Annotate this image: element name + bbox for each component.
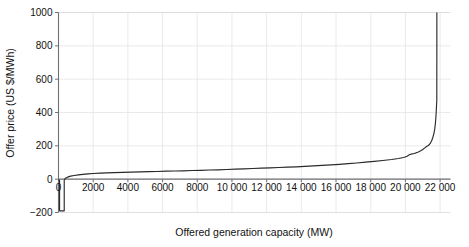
x-tick-label-18000: 18 000 — [355, 182, 386, 193]
x-tick-label-0: 0 — [56, 182, 62, 193]
y-tick-label-600: 600 — [36, 74, 53, 85]
x-tick-label-22000: 22 000 — [425, 182, 456, 193]
x-tick-label-16000: 16 000 — [321, 182, 352, 193]
x-axis-title: Offered generation capacity (MW) — [175, 226, 332, 238]
x-tick-labels: 0200040006000800010 00012 00014 00016 00… — [56, 182, 456, 193]
y-tick-label-200: 200 — [36, 140, 53, 151]
y-tick-labels: −20002004006008001000 — [30, 7, 53, 218]
x-tick-label-12000: 12 000 — [251, 182, 282, 193]
x-tick-label-8000: 8000 — [186, 182, 209, 193]
y-axis-title: Offer price (US $/MWh) — [4, 48, 16, 158]
y-tick-label-1000: 1000 — [30, 7, 53, 18]
y-tick-label-800: 800 — [36, 40, 53, 51]
x-tick-label-14000: 14 000 — [286, 182, 317, 193]
offer-stack-chart: 0200040006000800010 00012 00014 00016 00… — [0, 0, 469, 247]
x-tick-label-2000: 2000 — [82, 182, 105, 193]
x-tick-label-10000: 10 000 — [217, 182, 248, 193]
chart-figure: 0200040006000800010 00012 00014 00016 00… — [0, 0, 469, 247]
x-tick-label-6000: 6000 — [151, 182, 174, 193]
x-tick-label-4000: 4000 — [117, 182, 140, 193]
y-tick-label-0: 0 — [47, 174, 53, 185]
y-tick-label--200: −200 — [30, 207, 53, 218]
y-tick-label-400: 400 — [36, 107, 53, 118]
x-tick-label-20000: 20 000 — [390, 182, 421, 193]
